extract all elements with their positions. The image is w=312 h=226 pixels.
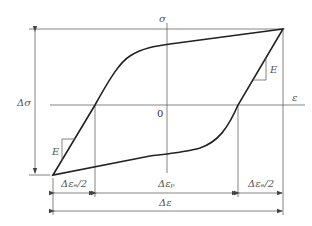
elastic-half-right-label: Δεₑ/2 <box>247 178 274 189</box>
sigma-axis-label: σ <box>159 13 167 24</box>
elastic-half-left-label: Δεₑ/2 <box>60 178 87 189</box>
modulus-label-upper: E <box>269 64 278 75</box>
epsilon-axis-label: ε <box>292 92 297 103</box>
hysteresis-curve <box>53 29 283 175</box>
total-strain-label: Δε <box>158 197 172 208</box>
origin-label: 0 <box>157 108 163 119</box>
stress-range-label: Δσ <box>16 97 32 108</box>
hysteresis-loop-diagram: Δσ σ ε 0 E E Δεₑ/2 Δεₚ Δεₑ/2 Δε <box>0 0 312 226</box>
modulus-label-lower: E <box>51 146 60 157</box>
plastic-strain-label: Δεₚ <box>157 178 175 189</box>
